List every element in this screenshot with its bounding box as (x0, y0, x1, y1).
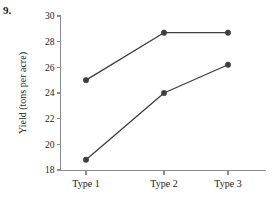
chart-series (83, 30, 230, 162)
x-axis-ticks: Type 1Type 2Type 3 (72, 171, 241, 190)
x-axis-tick-label: Type 1 (72, 178, 99, 189)
y-axis-tick-label: 28 (45, 37, 55, 47)
y-axis-title: Yield (tons per acre) (17, 52, 29, 134)
data-point-marker (161, 90, 166, 95)
y-axis-tick-label: 18 (45, 165, 55, 175)
data-point-marker (83, 77, 88, 82)
y-axis-tick-label: 30 (45, 11, 55, 21)
series-line-upper (86, 33, 228, 80)
x-axis-tick-label: Type 2 (150, 178, 177, 189)
y-axis-tick-label: 22 (45, 114, 55, 124)
series-line-lower (86, 65, 228, 160)
figure-container: 9. 18202224262830 Type 1Type 2Type 3 Yie… (0, 0, 273, 198)
line-chart: 18202224262830 Type 1Type 2Type 3 Yield … (0, 0, 273, 198)
data-point-marker (225, 62, 230, 67)
x-axis-tick-label: Type 3 (214, 178, 241, 189)
y-axis-tick-label: 26 (45, 63, 55, 73)
y-axis-tick-label: 24 (45, 88, 55, 98)
y-axis-tick-label: 20 (45, 140, 55, 150)
data-point-marker (225, 30, 230, 35)
data-point-marker (161, 30, 166, 35)
data-point-marker (83, 157, 88, 162)
y-axis-ticks: 18202224262830 (45, 11, 61, 175)
